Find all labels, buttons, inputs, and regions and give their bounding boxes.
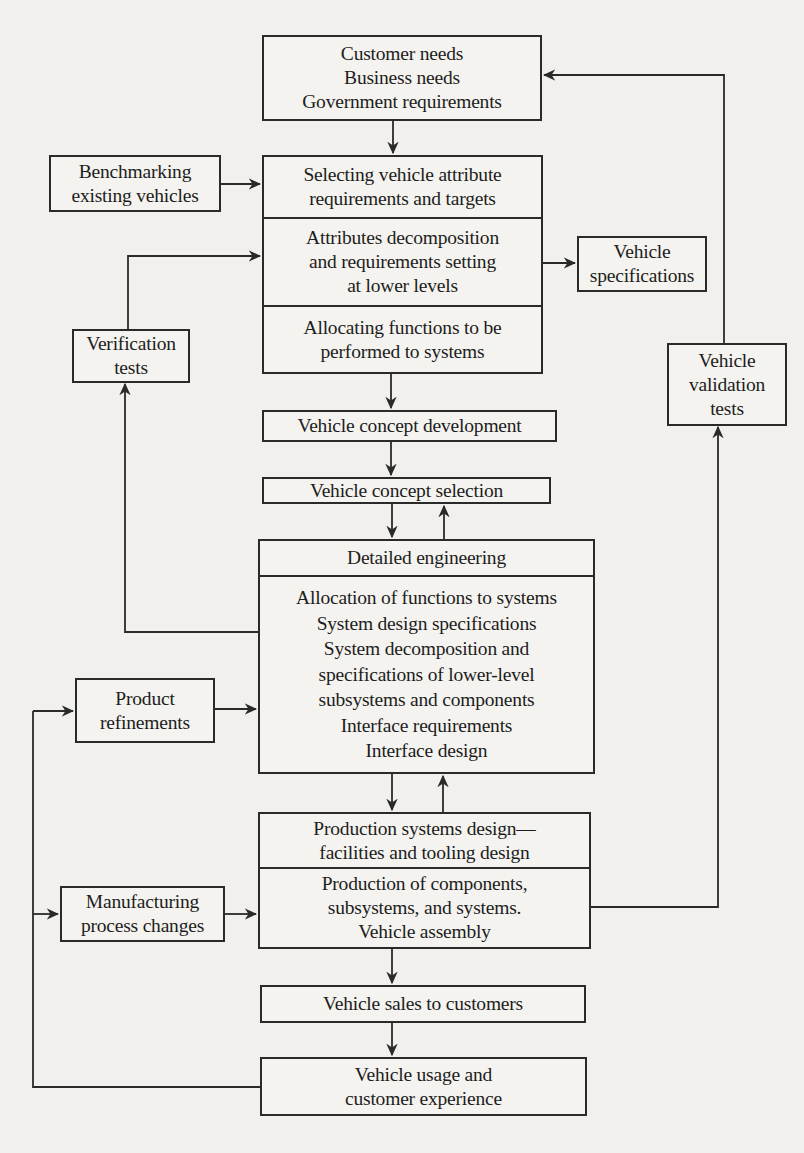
system-design-line: subsystems and components xyxy=(319,687,535,713)
production-design-line: Production systems design— xyxy=(313,817,535,841)
specifications-line: specifications xyxy=(590,264,694,288)
vehicle-specifications-box: Vehicle specifications xyxy=(577,236,707,292)
manufacturing-process-changes-box: Manufacturing process changes xyxy=(60,886,225,942)
detailed-engineering-cell: Detailed engineering xyxy=(260,541,593,575)
benchmarking-line: existing vehicles xyxy=(71,184,198,208)
allocating-line: performed to systems xyxy=(321,340,485,364)
vehicle-validation-tests-box: Vehicle validation tests xyxy=(667,343,787,426)
allocating-line: Allocating functions to be xyxy=(304,316,502,340)
production-design-cell: Production systems design— facilities an… xyxy=(260,814,589,867)
system-design-line: Interface design xyxy=(366,738,488,764)
decomposition-line: Attributes decomposition xyxy=(306,226,499,250)
concept-selection-line: Vehicle concept selection xyxy=(310,479,503,503)
edge-validation-to-needs xyxy=(544,75,724,343)
usage-line: customer experience xyxy=(345,1087,502,1111)
detailed-engineering-stack: Detailed engineering Allocation of funct… xyxy=(258,539,595,774)
edge-system-design-to-verification xyxy=(125,384,258,632)
verification-tests-box: Verification tests xyxy=(72,329,190,383)
sales-line: Vehicle sales to customers xyxy=(323,992,523,1016)
edge-production-to-validation xyxy=(590,427,718,907)
production-stack: Production systems design— facilities an… xyxy=(258,812,591,949)
needs-line: Business needs xyxy=(344,66,460,90)
detailed-engineering-line: Detailed engineering xyxy=(347,546,506,570)
usage-line: Vehicle usage and xyxy=(355,1063,492,1087)
attribute-requirements-stack: Selecting vehicle attribute requirements… xyxy=(262,155,543,374)
manufacturing-line: process changes xyxy=(81,914,204,938)
validation-line: tests xyxy=(710,397,744,421)
vehicle-usage-box: Vehicle usage and customer experience xyxy=(260,1057,587,1116)
system-design-line: System decomposition and xyxy=(324,636,529,662)
benchmarking-box: Benchmarking existing vehicles xyxy=(49,155,221,212)
selecting-attributes-line: Selecting vehicle attribute xyxy=(303,163,501,187)
production-cell: Production of components, subsystems, an… xyxy=(260,867,589,947)
system-design-line: Allocation of functions to systems xyxy=(296,585,557,611)
selecting-attributes-line: requirements and targets xyxy=(309,187,496,211)
selecting-attributes-cell: Selecting vehicle attribute requirements… xyxy=(264,157,541,217)
refinements-line: refinements xyxy=(100,711,190,735)
refinements-line: Product xyxy=(115,687,174,711)
production-line: Vehicle assembly xyxy=(358,920,491,944)
specifications-line: Vehicle xyxy=(613,240,670,264)
vehicle-sales-box: Vehicle sales to customers xyxy=(260,985,586,1023)
benchmarking-line: Benchmarking xyxy=(79,160,191,184)
concept-development-line: Vehicle concept development xyxy=(297,414,521,438)
production-line: subsystems, and systems. xyxy=(328,896,521,920)
needs-line: Government requirements xyxy=(302,90,502,114)
validation-line: Vehicle xyxy=(698,349,755,373)
needs-box: Customer needs Business needs Government… xyxy=(262,35,542,121)
system-design-line: System design specifications xyxy=(317,611,537,637)
product-refinements-box: Product refinements xyxy=(75,678,215,743)
production-design-line: facilities and tooling design xyxy=(319,841,529,865)
system-design-line: Interface requirements xyxy=(341,713,513,739)
manufacturing-line: Manufacturing xyxy=(86,890,199,914)
needs-line: Customer needs xyxy=(341,42,463,66)
verification-line: Verification xyxy=(86,332,176,356)
system-design-line: specifications of lower-level xyxy=(319,662,535,688)
system-design-cell: Allocation of functions to systems Syste… xyxy=(260,575,593,772)
allocating-functions-cell: Allocating functions to be performed to … xyxy=(264,305,541,372)
concept-development-box: Vehicle concept development xyxy=(262,410,557,442)
decomposition-line: and requirements setting xyxy=(309,250,496,274)
concept-selection-box: Vehicle concept selection xyxy=(262,477,551,504)
verification-line: tests xyxy=(114,356,148,380)
production-line: Production of components, xyxy=(322,872,528,896)
validation-line: validation xyxy=(689,373,765,397)
edge-verification-to-decomposition xyxy=(128,256,260,329)
decomposition-line: at lower levels xyxy=(347,274,458,298)
attribute-decomposition-cell: Attributes decomposition and requirement… xyxy=(264,217,541,305)
